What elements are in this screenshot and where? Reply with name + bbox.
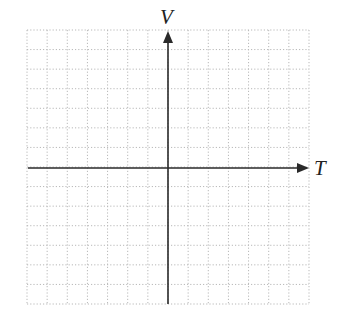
v-axis-label: V — [160, 5, 175, 29]
t-axis-label: T — [314, 156, 327, 180]
t-axis-arrowhead-icon — [297, 163, 309, 173]
coordinate-plane: V T — [0, 0, 346, 325]
v-axis-arrowhead-icon — [163, 31, 173, 43]
